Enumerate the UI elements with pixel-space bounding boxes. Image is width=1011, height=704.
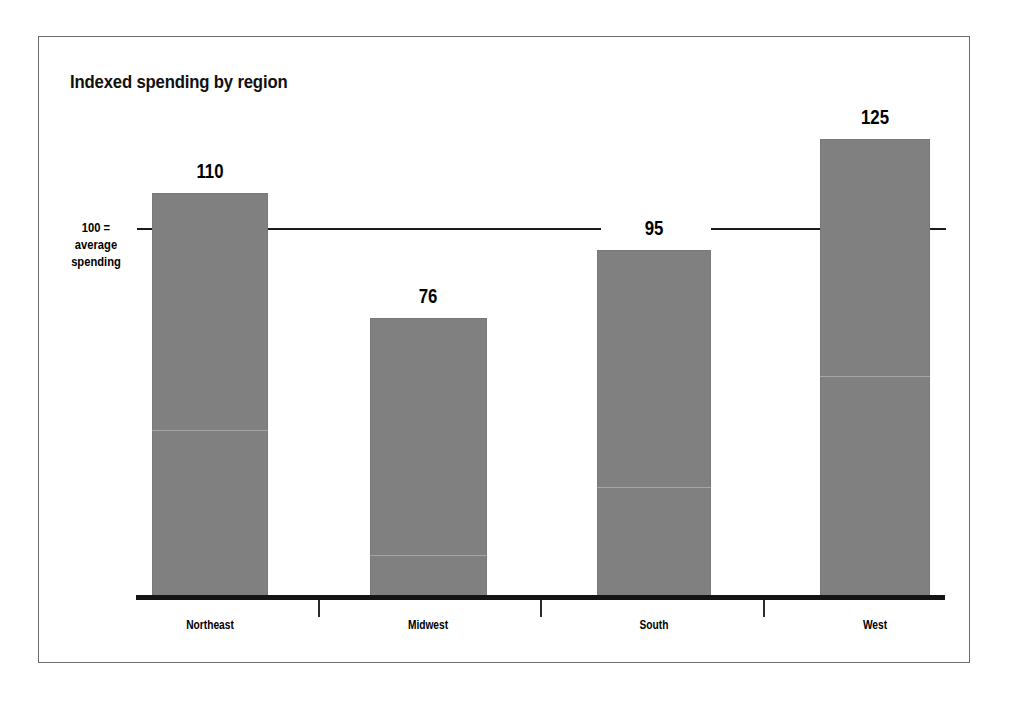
bar-value-south: 95 (606, 216, 702, 240)
reference-line-label-line-1: 100 = (62, 219, 131, 236)
bar-value-midwest: 76 (380, 284, 476, 308)
chart-title: Indexed spending by region (70, 71, 287, 93)
x-axis-tick-2 (540, 600, 542, 617)
x-axis-label-west: West (824, 618, 926, 632)
bar-value-northeast: 110 (162, 159, 258, 183)
bar-value-west: 125 (827, 105, 923, 129)
x-axis-label-midwest: Midwest (377, 618, 479, 632)
bar-south[interactable] (597, 250, 711, 597)
reference-line-label-line-3: spending (62, 253, 131, 270)
x-axis-tick-1 (318, 600, 320, 617)
bar-west[interactable] (820, 139, 930, 597)
reference-line-segment-1 (268, 228, 601, 230)
x-axis-label-northeast: Northeast (159, 618, 261, 632)
reference-line-segment-2 (711, 228, 821, 230)
x-axis-label-south: South (603, 618, 705, 632)
bar-midwest[interactable] (370, 318, 487, 597)
bar-northeast[interactable] (152, 193, 268, 597)
reference-line-segment-right-stub (930, 228, 946, 230)
reference-line-label-line-2: average (62, 236, 131, 253)
x-axis-tick-3 (763, 600, 765, 617)
reference-line-label: 100 = average spending (62, 219, 131, 270)
